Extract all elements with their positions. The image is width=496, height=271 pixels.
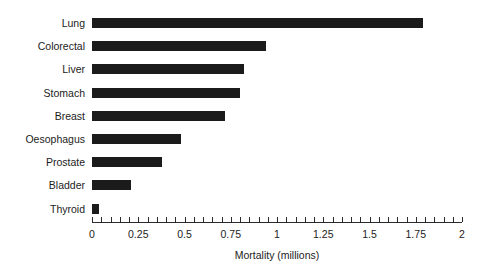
x-axis-minor-tick	[314, 217, 315, 222]
bar	[92, 111, 225, 121]
x-axis-major-tick	[185, 217, 186, 222]
x-axis-minor-tick	[129, 217, 130, 222]
x-axis-minor-tick	[397, 217, 398, 222]
x-axis-tick-label: 0.25	[128, 228, 148, 240]
x-axis-minor-tick	[240, 217, 241, 222]
x-axis-minor-tick	[194, 217, 195, 222]
category-label: Lung	[0, 17, 92, 29]
x-axis-tick-label: 1.75	[406, 228, 426, 240]
x-axis-major-tick	[138, 217, 139, 222]
x-axis-minor-tick	[120, 217, 121, 222]
x-axis-major-tick	[370, 217, 371, 222]
x-axis-minor-tick	[222, 217, 223, 222]
x-axis-tick-label: 1	[274, 228, 280, 240]
x-axis-minor-tick	[259, 217, 260, 222]
x-axis-minor-tick	[351, 217, 352, 222]
x-axis-minor-tick	[111, 217, 112, 222]
x-axis-tick-label: 2	[459, 228, 465, 240]
x-axis-title: Mortality (millions)	[92, 249, 462, 261]
x-axis-minor-tick	[453, 217, 454, 222]
x-axis-minor-tick	[388, 217, 389, 222]
x-axis-major-tick	[92, 217, 93, 222]
x-axis-minor-tick	[148, 217, 149, 222]
bar	[92, 41, 266, 51]
category-label: Stomach	[0, 87, 92, 99]
x-axis-tick-label: 0	[89, 228, 95, 240]
mortality-bar-chart: LungColorectalLiverStomachBreastOesophag…	[0, 0, 496, 271]
x-axis-tick-label: 1.25	[313, 228, 333, 240]
category-label: Prostate	[0, 156, 92, 168]
bar	[92, 180, 131, 190]
x-axis-minor-tick	[305, 217, 306, 222]
bar	[92, 64, 244, 74]
x-axis-tick-label: 1.5	[362, 228, 377, 240]
x-axis-minor-tick	[157, 217, 158, 222]
x-axis-minor-tick	[212, 217, 213, 222]
x-axis-minor-tick	[268, 217, 269, 222]
x-axis-line	[92, 222, 462, 223]
x-axis-major-tick	[323, 217, 324, 222]
category-label: Breast	[0, 110, 92, 122]
x-axis-minor-tick	[407, 217, 408, 222]
x-axis-major-tick	[462, 217, 463, 222]
x-axis-minor-tick	[249, 217, 250, 222]
x-axis-minor-tick	[101, 217, 102, 222]
category-label: Thyroid	[0, 203, 92, 215]
x-axis-minor-tick	[333, 217, 334, 222]
bar	[92, 18, 423, 28]
bar	[92, 88, 240, 98]
x-axis-minor-tick	[175, 217, 176, 222]
x-axis-minor-tick	[425, 217, 426, 222]
x-axis-minor-tick	[296, 217, 297, 222]
bar	[92, 157, 162, 167]
category-label: Oesophagus	[0, 133, 92, 145]
x-axis-major-tick	[231, 217, 232, 222]
category-label: Liver	[0, 63, 92, 75]
x-axis-tick-label: 0.75	[221, 228, 241, 240]
category-label: Bladder	[0, 179, 92, 191]
x-axis-minor-tick	[434, 217, 435, 222]
x-axis-minor-tick	[203, 217, 204, 222]
x-axis-minor-tick	[286, 217, 287, 222]
x-axis-minor-tick	[444, 217, 445, 222]
x-axis-minor-tick	[166, 217, 167, 222]
bar	[92, 134, 181, 144]
x-axis-minor-tick	[360, 217, 361, 222]
x-axis-tick-label: 0.5	[177, 228, 192, 240]
x-axis-major-tick	[277, 217, 278, 222]
x-axis-major-tick	[416, 217, 417, 222]
category-label: Colorectal	[0, 40, 92, 52]
x-axis-minor-tick	[379, 217, 380, 222]
x-axis-minor-tick	[342, 217, 343, 222]
bar	[92, 204, 99, 214]
